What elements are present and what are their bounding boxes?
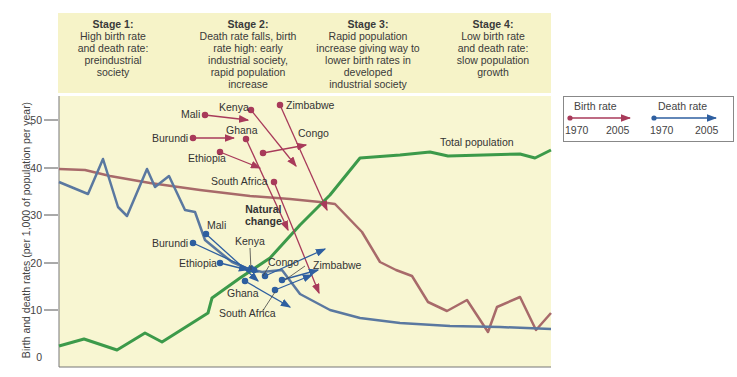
svg-text:South Africa: South Africa: [219, 307, 276, 319]
chart-plot: Mali Kenya Zimbabwe Burundi Ghana Congo …: [0, 0, 737, 377]
svg-text:Zimbabwe: Zimbabwe: [286, 99, 335, 111]
y-tick-marks: [44, 120, 58, 310]
svg-text:Burundi: Burundi: [152, 237, 188, 249]
svg-text:Burundi: Burundi: [152, 132, 188, 144]
svg-text:Mali: Mali: [207, 219, 226, 231]
svg-text:Ghana: Ghana: [226, 124, 258, 136]
svg-text:Kenya: Kenya: [235, 235, 265, 247]
svg-text:Ghana: Ghana: [227, 287, 259, 299]
svg-text:Zimbabwe: Zimbabwe: [313, 259, 362, 271]
legend-birth-end: 2005: [606, 124, 629, 136]
svg-text:Ethiopia: Ethiopia: [179, 257, 217, 269]
svg-text:Mali: Mali: [181, 108, 200, 120]
legend-death-end: 2005: [695, 124, 718, 136]
svg-text:Kenya: Kenya: [219, 101, 249, 113]
natural-change-label: Naturalchange: [245, 203, 282, 227]
legend-death-start: 1970: [650, 124, 673, 136]
svg-text:Ethiopia: Ethiopia: [188, 152, 226, 164]
legend-birth-dot: [567, 115, 572, 120]
svg-text:Congo: Congo: [268, 256, 299, 268]
svg-text:South Africa: South Africa: [211, 175, 268, 187]
svg-text:Congo: Congo: [298, 127, 329, 139]
legend-birth-start: 1970: [565, 124, 588, 136]
legend: Birth rate Death rate 1970 2005 1970 200…: [563, 96, 734, 142]
total-population-label: Total population: [440, 136, 514, 148]
legend-death-dot: [651, 115, 656, 120]
